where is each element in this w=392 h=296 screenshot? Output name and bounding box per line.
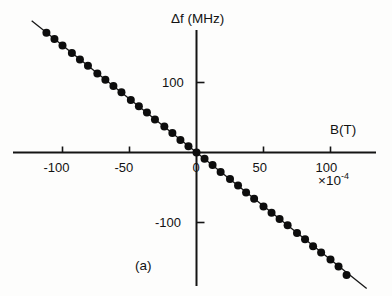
- data-point: [143, 109, 151, 117]
- x-tick-label: -100: [44, 161, 70, 174]
- x-tick-label: 100: [316, 161, 338, 174]
- y-tick-label: -100: [155, 216, 181, 229]
- data-point: [309, 242, 317, 250]
- data-point: [84, 62, 92, 70]
- data-point: [168, 129, 176, 137]
- data-point: [284, 221, 292, 229]
- data-point: [101, 76, 109, 84]
- data-point: [209, 161, 217, 169]
- data-point: [109, 82, 117, 90]
- data-point: [117, 88, 125, 96]
- data-point: [293, 229, 301, 237]
- plot-canvas: [0, 0, 392, 296]
- data-point: [176, 136, 184, 144]
- data-point: [68, 49, 76, 57]
- data-point: [201, 155, 209, 163]
- data-point: [327, 256, 335, 264]
- data-point: [335, 263, 343, 271]
- data-point: [151, 116, 159, 124]
- figure-panel: Δf (MHz) B(T) ×10-4 (a) -100-50050100 10…: [0, 0, 392, 296]
- data-point: [268, 209, 276, 217]
- data-point: [276, 215, 284, 223]
- data-point: [343, 271, 351, 279]
- data-point: [260, 202, 268, 210]
- data-point: [42, 29, 50, 37]
- x-tick-label: -50: [115, 161, 134, 174]
- data-point: [317, 249, 325, 257]
- data-point: [160, 123, 168, 131]
- multiplier-base: ×10: [318, 173, 341, 188]
- multiplier-exponent: -4: [341, 171, 349, 181]
- data-point: [234, 181, 242, 189]
- data-point: [301, 235, 309, 243]
- y-axis-title: Δf (MHz): [171, 12, 224, 26]
- data-point: [226, 175, 234, 183]
- data-point: [217, 168, 225, 176]
- data-point: [242, 188, 250, 196]
- panel-caption: (a): [135, 259, 152, 273]
- data-point: [50, 35, 58, 43]
- data-point: [127, 96, 135, 104]
- x-tick-label: 50: [253, 161, 267, 174]
- x-tick-label: 0: [193, 161, 200, 174]
- data-point: [193, 149, 201, 157]
- data-point: [59, 41, 67, 49]
- data-point: [250, 195, 258, 203]
- axes-group: [13, 30, 376, 286]
- y-tick-label: 100: [162, 76, 184, 89]
- data-point: [184, 142, 192, 150]
- data-point: [76, 55, 84, 63]
- data-point: [93, 69, 101, 77]
- data-point: [135, 102, 143, 110]
- x-axis-title: B(T): [330, 123, 356, 137]
